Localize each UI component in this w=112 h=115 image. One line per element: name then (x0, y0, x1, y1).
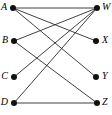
vertex-label-b: B (2, 34, 8, 45)
graph-edge-a-y (13, 8, 96, 77)
graph-vertex-b (11, 38, 17, 44)
graph-vertex-x (93, 38, 99, 44)
graph-vertex-w (94, 5, 100, 11)
graph-canvas: ABCDWXYZ (0, 0, 112, 115)
graph-edge-c-w (14, 8, 97, 77)
graph-vertex-a (10, 5, 16, 11)
vertex-label-c: C (1, 70, 8, 81)
vertex-label-w: W (102, 1, 112, 12)
vertex-label-z: Z (102, 96, 108, 107)
edges-group (13, 8, 97, 103)
bipartite-graph-figure: ABCDWXYZ (0, 0, 112, 115)
graph-vertex-z (94, 100, 100, 106)
graph-edge-d-w (14, 8, 97, 103)
graph-vertex-d (11, 100, 17, 106)
vertex-label-y: Y (102, 70, 109, 81)
graph-vertex-y (93, 74, 99, 80)
graph-vertex-c (11, 74, 17, 80)
graph-edge-b-z (14, 41, 97, 103)
vertex-label-x: X (101, 34, 109, 45)
vertex-label-d: D (0, 96, 9, 107)
vertex-label-a: A (0, 1, 8, 12)
